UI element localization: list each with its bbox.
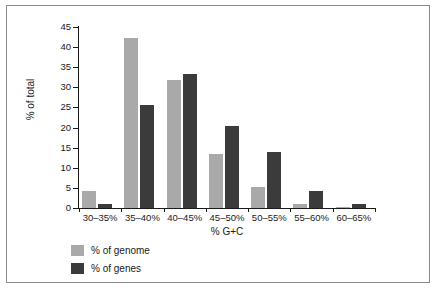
bar [82,191,96,208]
bar-group [164,27,206,208]
bar-group [206,27,248,208]
y-tick-label: 0 [41,203,71,213]
y-tick-label-text: 25 [43,102,71,111]
y-tick-mark [73,128,78,129]
y-tick-mark [73,87,78,88]
y-tick-label: 10 [41,163,71,173]
legend-item: % of genome [71,242,150,258]
y-tick-label: 25 [41,102,71,112]
y-axis-title: % of total [25,55,36,145]
y-tick-label-text: 0 [43,203,71,212]
y-tick-mark [73,148,78,149]
legend-label: % of genome [91,245,150,256]
bar [225,126,239,208]
y-tick-mark [73,188,78,189]
y-tick-label: 20 [41,123,71,133]
y-tick-mark [73,107,78,108]
bar-group [121,27,163,208]
bar [352,204,366,208]
legend-label: % of genes [91,263,141,274]
legend-swatch [71,245,84,256]
legend: % of genome% of genes [71,242,150,278]
y-tick-label: 15 [41,143,71,153]
legend-item: % of genes [71,260,150,276]
y-tick-label-text: 20 [43,123,71,132]
bar [267,152,281,208]
legend-swatch [71,263,84,274]
x-axis-title: % G+C [79,226,375,237]
bar [336,207,350,208]
bar [140,105,154,208]
bar-group [79,27,121,208]
x-tick-mark [375,208,376,212]
y-tick-mark [73,67,78,68]
y-tick-label: 40 [41,42,71,52]
y-tick-mark [73,168,78,169]
bar-group [290,27,332,208]
y-tick-label-text: 40 [43,42,71,51]
bar [124,38,138,208]
y-tick-label-text: 35 [43,62,71,71]
figure-frame: 051015202530354045 % of total 30–35%35–4… [6,5,430,283]
y-tick-label: 30 [41,82,71,92]
bar [98,204,112,208]
bar-group [333,27,375,208]
bar [251,187,265,208]
y-tick-mark [73,27,78,28]
x-axis-line [78,208,376,209]
y-tick-mark [73,208,78,209]
bar [167,80,181,208]
y-tick-label: 35 [41,62,71,72]
y-tick-label-text: 15 [43,143,71,152]
bar [309,191,323,208]
y-tick-label: 5 [41,183,71,193]
y-tick-label-text: 45 [43,22,71,31]
figure-container: 051015202530354045 % of total 30–35%35–4… [0,0,438,290]
y-tick-label-text: 10 [43,163,71,172]
x-tick-label: 60–65% [326,212,382,223]
y-tick-label-text: 30 [43,82,71,91]
y-tick-label-text: 5 [43,183,71,192]
bar [209,154,223,208]
y-tick-label: 45 [41,22,71,32]
y-tick-mark [73,47,78,48]
bar [293,204,307,208]
bar-group [248,27,290,208]
plot-area [79,27,375,208]
bar [183,74,197,208]
